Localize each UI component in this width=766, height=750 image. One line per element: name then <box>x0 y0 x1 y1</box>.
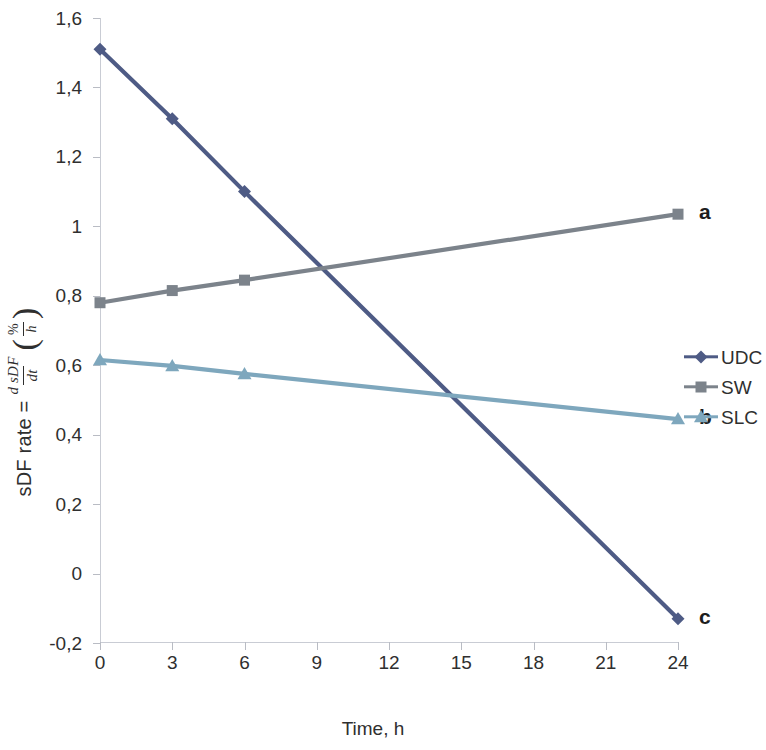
y-tick-label: 1 <box>71 216 82 238</box>
y-tick-label: 1,6 <box>56 8 82 30</box>
x-tick <box>245 642 246 650</box>
derivative-denominator: dt <box>23 366 40 384</box>
y-tick: 1 <box>93 226 100 227</box>
x-tick <box>317 642 318 650</box>
annotation-c: c <box>699 605 711 629</box>
y-tick-label: 0,2 <box>56 494 82 516</box>
y-tick: 0 <box>93 574 100 575</box>
legend-swatch-sw-icon <box>684 378 718 396</box>
y-tick-label: 1,4 <box>56 77 82 99</box>
data-point-marker <box>95 297 106 308</box>
x-tick-label: 0 <box>95 652 106 674</box>
data-point-marker <box>694 410 708 422</box>
y-tick: 1,6 <box>93 18 100 19</box>
x-tick <box>100 642 101 650</box>
derivative-numerator: d sDF <box>6 353 22 397</box>
data-point-marker <box>696 382 707 393</box>
y-axis-title-unit: % h <box>7 320 39 338</box>
x-tick-label: 3 <box>167 652 178 674</box>
legend-swatch-slc-icon <box>684 408 718 426</box>
y-tick: 0,6 <box>93 365 100 366</box>
series-line <box>100 214 678 303</box>
x-tick-label: 9 <box>311 652 322 674</box>
series-line <box>100 360 678 419</box>
data-point-marker <box>673 209 684 220</box>
y-axis-title-lead: sDF rate = <box>13 401 36 497</box>
annotation-a: a <box>699 200 711 224</box>
series-slc <box>93 353 685 424</box>
data-point-marker <box>167 285 178 296</box>
legend-item-sw[interactable]: SW <box>684 372 766 402</box>
x-tick-label: 18 <box>523 652 544 674</box>
y-tick-label: 0,8 <box>56 285 82 307</box>
series-line <box>100 49 678 618</box>
x-tick-label: 15 <box>451 652 472 674</box>
legend-swatch-udc-icon <box>684 348 718 366</box>
legend-marker-diamond-icon <box>693 349 709 365</box>
y-axis-title-derivative: d sDF dt <box>6 353 40 397</box>
unit-denominator: h <box>23 322 39 335</box>
legend-marker-square-icon <box>693 379 709 395</box>
x-tick <box>461 642 462 650</box>
unit-numerator: % <box>7 320 22 338</box>
legend-item-slc[interactable]: SLC <box>684 402 766 432</box>
x-tick-label: 21 <box>595 652 616 674</box>
x-tick <box>172 642 173 650</box>
plot-area: 1,61,41,210,80,60,40,20-0,2 036912151821… <box>100 18 678 643</box>
legend-label: SLC <box>721 408 758 427</box>
legend-marker-triangle-icon <box>693 409 709 425</box>
chart-figure: sDF rate = d sDF dt ( % h ) 1,61,41,210,… <box>0 0 766 750</box>
x-tick <box>678 642 679 650</box>
x-tick <box>534 642 535 650</box>
chart-legend: UDCSWSLC <box>684 342 766 432</box>
x-tick-label: 24 <box>667 652 688 674</box>
legend-label: UDC <box>721 348 762 367</box>
x-tick <box>606 642 607 650</box>
y-tick: 0,8 <box>93 296 100 297</box>
legend-label: SW <box>721 378 752 397</box>
y-tick: -0,2 <box>93 643 100 644</box>
y-tick-label: 0,4 <box>56 424 82 446</box>
y-tick: 0,4 <box>93 435 100 436</box>
y-tick-label: -0,2 <box>49 633 82 655</box>
x-tick-label: 12 <box>378 652 399 674</box>
y-tick-label: 0 <box>71 563 82 585</box>
y-tick-label: 1,2 <box>56 146 82 168</box>
series-udc <box>94 43 685 625</box>
y-tick: 0,2 <box>93 504 100 505</box>
x-tick <box>389 642 390 650</box>
legend-item-udc[interactable]: UDC <box>684 342 766 372</box>
y-tick-label: 0,6 <box>56 355 82 377</box>
series-sw <box>95 209 684 309</box>
data-point-marker <box>239 275 250 286</box>
data-point-marker <box>695 351 708 364</box>
y-tick: 1,2 <box>93 157 100 158</box>
x-axis-title: Time, h <box>0 718 766 740</box>
series-layer <box>100 18 678 643</box>
y-tick: 1,4 <box>93 87 100 88</box>
y-axis-title: sDF rate = d sDF dt ( % h ) <box>2 262 46 542</box>
x-axis-title-label: Time, h <box>342 718 405 739</box>
x-tick-label: 6 <box>239 652 250 674</box>
